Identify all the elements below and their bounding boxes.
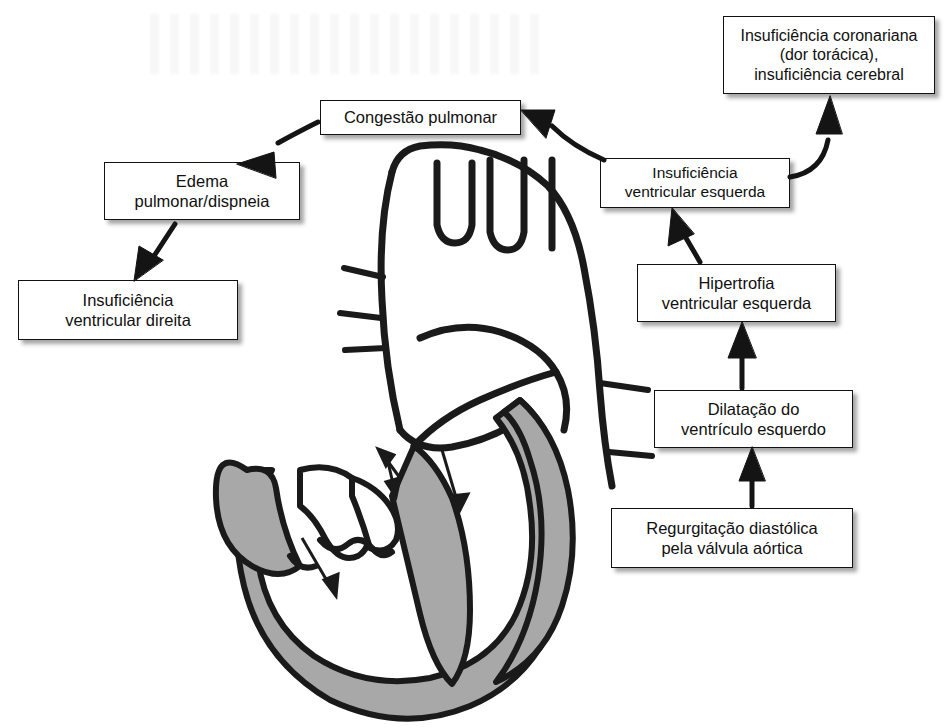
interventricular-septum: [392, 446, 470, 684]
node-hipertrofia-ventricular-esquerda: Hipertrofia ventricular esquerda: [637, 264, 836, 322]
left-common-carotid: [490, 160, 524, 250]
left-branch-mid: [345, 348, 386, 350]
aortic-branch-lower: [609, 452, 652, 456]
node-regurgitacao-diastolica: Regurgitação diastólica pela válvula aór…: [611, 508, 853, 568]
node-insuficiencia-ventricular-esquerda: Insuficiência ventricular esquerda: [600, 158, 790, 208]
left-branch-lower: [340, 313, 381, 318]
ascending-aorta-left-wall: [381, 172, 400, 430]
node-edema-pulmonar-dispneia: Edema pulmonar/dispneia: [104, 162, 300, 220]
diagram-canvas: Insuficiência coronariana (dor torácica)…: [0, 0, 951, 728]
left-branch-upper: [344, 268, 383, 277]
node-insuficiencia-coronariana: Insuficiência coronariana (dor torácica)…: [723, 16, 935, 94]
node-congestao-pulmonar: Congestão pulmonar: [320, 100, 521, 135]
brachiocephalic-trunk: [437, 163, 472, 243]
node-dilatacao-ventriculo-esquerdo: Dilatação do ventrículo esquerdo: [654, 390, 853, 448]
aortic-branch-upper: [600, 383, 648, 390]
node-insuficiencia-ventricular-direita: Insuficiência ventricular direita: [18, 280, 238, 340]
